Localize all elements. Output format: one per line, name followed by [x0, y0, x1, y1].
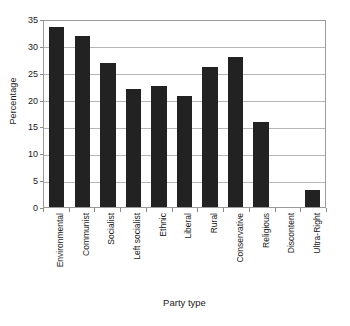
bar — [75, 36, 90, 207]
x-label-slot: Conservative — [223, 208, 249, 290]
y-axis-tick-label: 5 — [17, 177, 38, 186]
x-label-slot: Socialist — [94, 208, 120, 290]
y-axis-tick-mark — [40, 74, 43, 75]
x-axis-tick-label: Ultra-Right — [313, 213, 322, 254]
x-axis-tick-mark — [94, 208, 95, 212]
bar-slot — [121, 21, 147, 207]
bar-chart: Percentage 05101520253035 EnvironmentalC… — [0, 0, 350, 326]
x-axis-title: Party type — [43, 297, 326, 308]
x-axis-tick-mark — [172, 208, 173, 212]
bar-slot — [70, 21, 96, 207]
x-axis-tick-label: Ethnic — [159, 213, 168, 237]
y-axis-tick-mark — [40, 181, 43, 182]
bar-slot — [95, 21, 121, 207]
bar-slot — [44, 21, 70, 207]
y-axis-tick-label: 10 — [17, 150, 38, 159]
x-axis-tick-mark — [120, 208, 121, 212]
x-axis-tick-label: Religious — [262, 213, 271, 248]
y-axis-tick-mark — [40, 101, 43, 102]
y-axis-tick-mark — [40, 127, 43, 128]
bar-slot — [172, 21, 198, 207]
y-axis-tick-label: 30 — [17, 42, 38, 51]
x-label-slot: Environmental — [43, 208, 69, 290]
x-axis-tick-mark — [69, 208, 70, 212]
x-axis-tick-mark — [197, 208, 198, 212]
bar — [100, 63, 115, 207]
bar — [253, 122, 268, 207]
x-label-slot: Ultra-Right — [300, 208, 326, 290]
bar — [49, 27, 64, 207]
x-axis-tick-label: Conservative — [236, 213, 245, 263]
bar — [126, 89, 141, 207]
x-axis-tick-label: Liberal — [184, 213, 193, 239]
x-axis-tick-mark — [326, 208, 327, 212]
bar-slot — [197, 21, 223, 207]
x-label-slot: Left socialist — [120, 208, 146, 290]
plot-area — [43, 20, 326, 208]
x-axis-tick-label: Communist — [82, 213, 91, 256]
bar-slot — [146, 21, 172, 207]
x-label-slot: Liberal — [172, 208, 198, 290]
x-axis-tick-mark — [146, 208, 147, 212]
x-label-slot: Discontent — [275, 208, 301, 290]
x-axis-tick-labels: EnvironmentalCommunistSocialistLeft soci… — [43, 208, 326, 290]
bar — [228, 57, 243, 207]
y-axis-tick-mark — [40, 47, 43, 48]
x-axis-tick-mark — [300, 208, 301, 212]
x-axis-tick-mark — [249, 208, 250, 212]
x-axis-tick-label: Discontent — [287, 213, 296, 253]
x-axis-tick-mark — [223, 208, 224, 212]
bar — [305, 190, 320, 207]
bar — [177, 96, 192, 207]
x-axis-tick-label: Rural — [210, 213, 219, 233]
y-axis-tick-mark — [40, 154, 43, 155]
x-label-slot: Communist — [69, 208, 95, 290]
bar — [151, 86, 166, 207]
x-axis-tick-label: Environmental — [56, 213, 65, 267]
bar-slot — [299, 21, 325, 207]
x-axis-tick-mark — [275, 208, 276, 212]
y-axis-tick-label: 15 — [17, 123, 38, 132]
x-label-slot: Ethnic — [146, 208, 172, 290]
y-axis-tick-label: 20 — [17, 96, 38, 105]
x-axis-tick-label: Socialist — [107, 213, 116, 245]
y-axis-tick-label: 0 — [17, 204, 38, 213]
bars-container — [44, 21, 325, 207]
bar-slot — [248, 21, 274, 207]
bar — [202, 67, 217, 207]
bar-slot — [274, 21, 300, 207]
x-label-slot: Rural — [197, 208, 223, 290]
bar-slot — [223, 21, 249, 207]
x-axis-tick-label: Left socialist — [133, 213, 142, 260]
x-label-slot: Religious — [249, 208, 275, 290]
x-axis-tick-mark — [43, 208, 44, 212]
y-axis-tick-mark — [40, 20, 43, 21]
y-axis-tick-labels: 05101520253035 — [17, 20, 38, 208]
y-axis-tick-label: 25 — [17, 69, 38, 78]
y-axis-tick-label: 35 — [17, 16, 38, 25]
